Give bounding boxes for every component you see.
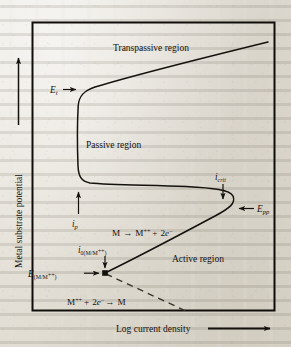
marker-i-crit: icrit [215,172,226,199]
marker-e-t: Et [49,85,76,96]
x-axis-group: Log current density [116,324,270,334]
y-axis-label: Metal substrate potential [14,174,24,268]
marker-e-mm: E(M/M++) [27,269,99,281]
exchange-current-node-marker [102,270,108,276]
marker-e-t-subscript: t [56,89,58,96]
region-label-active: Active region [172,254,224,264]
marker-i-p-label: ip [72,219,79,230]
marker-i-p: ip [72,192,79,230]
y-axis-group: Metal substrate potential [14,58,24,268]
marker-i-zero: i0(M/M++) [78,245,106,268]
anodic-polarization-curve [78,42,268,273]
region-label-transpassive: Transpassive region [113,43,189,53]
marker-e-pp: Epp [239,204,270,215]
polarization-curve-figure: Transpassive region Passive region Activ… [0,0,291,347]
plot-frame [33,23,275,311]
equation-cathodic-reaction: M+++2e−→M [67,297,126,307]
marker-e-pp-subscript: pp [262,208,270,215]
marker-i-zero-label: i0(M/M++) [78,245,106,257]
equation-anodic-reaction: M→M+++2e− [112,228,173,238]
marker-i-p-subscript: p [74,223,79,230]
x-axis-label: Log current density [116,324,191,334]
marker-e-t-label: Et [49,85,58,96]
marker-i-crit-subscript: crit [218,177,227,183]
marker-e-pp-label: Epp [256,204,270,215]
marker-e-mm-label: E(M/M++) [27,269,57,281]
marker-i-crit-label: icrit [215,172,226,183]
figure-canvas: Transpassive region Passive region Activ… [0,0,291,347]
region-label-passive: Passive region [86,140,141,150]
